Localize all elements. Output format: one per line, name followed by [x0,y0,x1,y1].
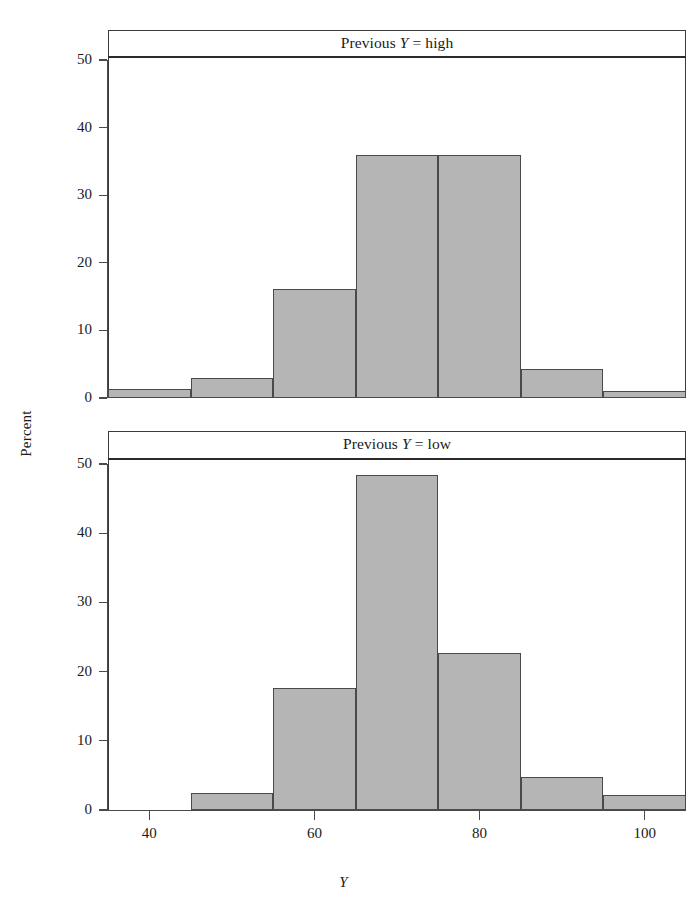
plot-area-low [108,462,686,810]
histogram-bar [273,289,356,399]
x-axis-line [107,810,686,811]
x-axis-tick-label: 80 [455,826,505,841]
strip-suffix-high: = high [409,34,454,51]
y-axis-tick [99,533,107,534]
x-axis-tick [149,811,150,820]
figure-container: Percent Previous Y = high Previous Y = l… [0,0,687,909]
histogram-bar [273,688,356,810]
plot-area-high [108,60,686,398]
histogram-bar [521,369,604,398]
strip-variable-high: Y [400,34,409,51]
y-axis-tick-label: 10 [52,322,92,337]
histogram-bar [521,777,604,810]
y-axis-tick-label: 20 [52,255,92,270]
y-axis-tick-label: 50 [52,456,92,471]
y-axis-tick [99,127,107,128]
y-axis-title: Percent [18,374,35,494]
y-axis-tick-label: 0 [52,802,92,817]
y-axis-tick [99,262,107,263]
panel-strip-title-low: Previous Y = low [108,431,686,460]
y-axis-tick [99,195,107,196]
x-axis-tick-label: 100 [620,826,670,841]
y-axis-tick-label: 10 [52,733,92,748]
histogram-bar [108,389,191,398]
y-axis-tick-label: 40 [52,120,92,135]
strip-suffix-low: = low [411,435,451,452]
y-axis-tick [99,809,107,810]
y-axis-tick-label: 30 [52,594,92,609]
y-axis-tick [99,397,107,398]
histogram-bar [603,391,686,398]
x-axis-tick [479,811,480,820]
y-axis-line [107,464,108,810]
strip-variable-low: Y [402,435,411,452]
x-axis-tick-label: 60 [289,826,339,841]
y-axis-tick-label: 0 [52,390,92,405]
y-axis-tick [99,671,107,672]
histogram-bar [191,793,274,810]
histogram-bar [438,155,521,398]
y-axis-tick [99,463,107,464]
y-axis-tick-label: 20 [52,664,92,679]
histogram-bar [603,795,686,810]
y-axis-tick [99,59,107,60]
y-axis-line [107,60,108,398]
x-axis-tick [314,811,315,820]
panel-previous-y-low: Previous Y = low [108,431,686,811]
strip-prefix-low: Previous [343,435,402,452]
panel-strip-title-high: Previous Y = high [108,30,686,58]
y-axis-tick-label: 30 [52,187,92,202]
strip-prefix-high: Previous [341,34,400,51]
x-axis-title: Y [0,874,687,891]
x-axis-tick-label: 40 [124,826,174,841]
histogram-bar [438,653,521,810]
histogram-bar [356,155,439,398]
y-axis-tick [99,740,107,741]
panel-previous-y-high: Previous Y = high [108,30,686,398]
histogram-bar [356,475,439,810]
y-axis-tick-label: 50 [52,52,92,67]
histogram-bar [191,378,274,398]
y-axis-tick-label: 40 [52,525,92,540]
x-axis-tick [644,811,645,820]
y-axis-tick [99,602,107,603]
y-axis-tick [99,330,107,331]
